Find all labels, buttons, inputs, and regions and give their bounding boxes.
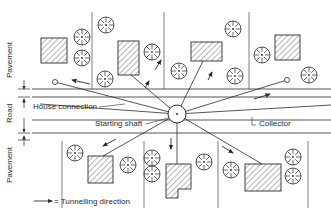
pavement-top-label: Pavement bbox=[5, 41, 14, 78]
micro-tunnelling-diagram: Pavement Road Pavement House connection … bbox=[0, 0, 331, 219]
house-icon bbox=[166, 164, 191, 198]
house-icon bbox=[88, 156, 113, 183]
house-icon bbox=[275, 35, 300, 60]
starting-shaft-label: Starting shaft bbox=[95, 119, 143, 128]
house-icon bbox=[245, 164, 281, 191]
house-connection-label: House connection bbox=[33, 102, 97, 111]
legend-label: = Tunnelling direction bbox=[54, 197, 130, 206]
house-icon bbox=[118, 41, 139, 75]
pavement-bottom-label: Pavement bbox=[5, 146, 14, 183]
house-icon bbox=[191, 42, 222, 61]
house-icon bbox=[41, 38, 67, 63]
legend: = Tunnelling direction bbox=[34, 197, 130, 206]
road-label: Road bbox=[5, 104, 14, 123]
side-dimension bbox=[18, 80, 30, 146]
collector-label: Collector bbox=[259, 119, 291, 128]
